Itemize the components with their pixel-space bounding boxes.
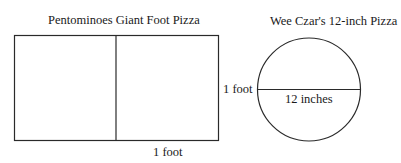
right-figure-title: Wee Czar's 12-inch Pizza — [270, 15, 397, 28]
rectangle-bottom-label: 1 foot — [153, 146, 183, 159]
left-figure-title: Pentominoes Giant Foot Pizza — [48, 14, 200, 27]
circle-diameter-label: 12 inches — [285, 93, 333, 106]
rectangle-side-label: 1 foot — [223, 83, 253, 96]
